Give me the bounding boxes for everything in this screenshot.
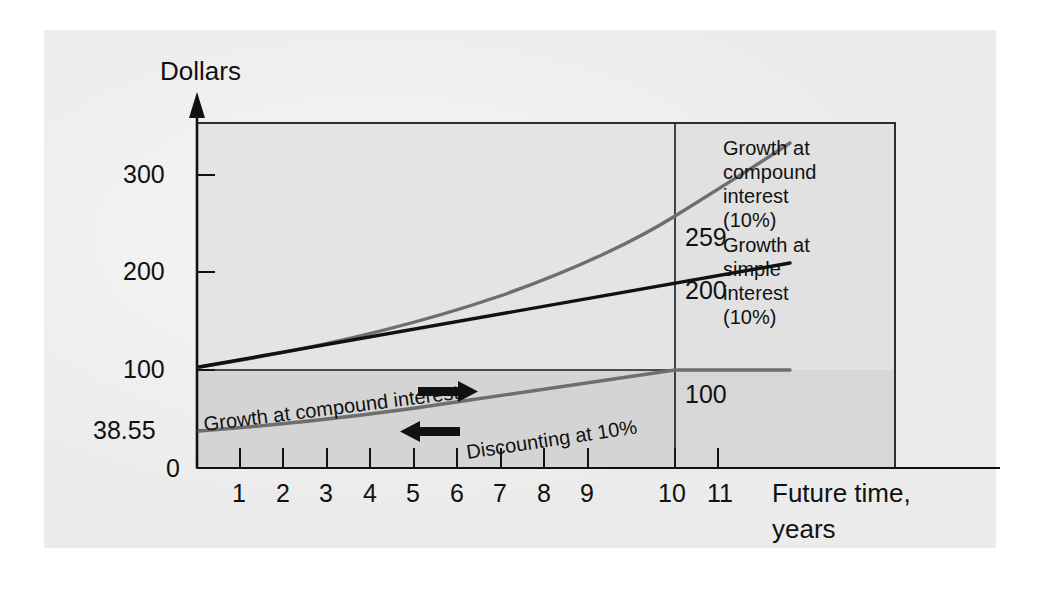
value-label-200: 200 [685, 278, 727, 303]
value-label-259: 259 [685, 225, 727, 250]
annotation-simple-interest-line3: interest [723, 281, 789, 305]
y-tick-label-38-55: 38.55 [93, 418, 156, 443]
figure-page: Dollars 300 200 100 38.55 0 1 2 3 4 5 6 … [0, 0, 1048, 590]
y-axis-title: Dollars [160, 58, 241, 84]
y-axis-arrow-icon [189, 92, 205, 118]
x-tick-label-4: 4 [363, 481, 377, 506]
x-tick-label-10: 10 [658, 481, 686, 506]
value-label-100: 100 [685, 382, 727, 407]
x-tick-label-5: 5 [406, 481, 420, 506]
y-tick-label-100: 100 [123, 357, 165, 382]
x-tick-label-8: 8 [537, 481, 551, 506]
x-tick-label-6: 6 [450, 481, 464, 506]
annotation-simple-interest-line4: (10%) [723, 305, 776, 329]
x-tick-label-11: 11 [707, 481, 733, 506]
x-tick-label-2: 2 [276, 481, 290, 506]
y-tick-label-200: 200 [123, 259, 165, 284]
annotation-compound-interest-line3: interest [723, 184, 789, 208]
y-tick-label-0: 0 [166, 456, 180, 481]
x-tick-label-7: 7 [493, 481, 507, 506]
y-tick-label-300: 300 [123, 162, 165, 187]
x-tick-label-9: 9 [580, 481, 594, 506]
annotation-simple-interest-line2: simple [723, 257, 781, 281]
annotation-compound-interest-line4: (10%) [723, 208, 776, 232]
x-tick-label-3: 3 [319, 481, 333, 506]
x-tick-label-1: 1 [232, 481, 246, 506]
annotation-compound-interest-line1: Growth at [723, 136, 810, 160]
x-axis-title-line2: years [772, 516, 836, 542]
annotation-simple-interest-line1: Growth at [723, 233, 810, 257]
x-axis-title-line1: Future time, [772, 480, 911, 506]
annotation-compound-interest-line2: compound [723, 160, 816, 184]
